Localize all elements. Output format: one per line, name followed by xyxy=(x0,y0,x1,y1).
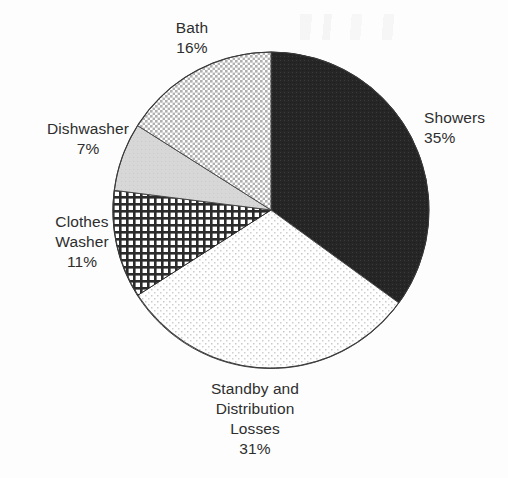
pie-label-dishwasher: Dishwasher 7% xyxy=(30,119,146,159)
pie-label-bath: Bath 16% xyxy=(152,18,232,58)
pie-label-showers: Showers 35% xyxy=(424,108,485,148)
pie-label-clothes-washer: Clothes Washer 11% xyxy=(36,212,128,272)
pie-label-standby-and-distribution-losses: Standby and Distribution Losses 31% xyxy=(185,379,325,460)
pie-chart-figure: Showers 35% Standby and Distribution Los… xyxy=(0,0,508,478)
